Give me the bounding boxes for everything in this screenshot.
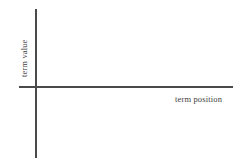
chart-figure: term value term position	[0, 0, 249, 158]
y-axis-line	[35, 9, 37, 158]
x-axis-label: term position	[175, 95, 222, 104]
x-axis-line	[19, 86, 233, 88]
y-axis-label: term value	[20, 28, 29, 88]
